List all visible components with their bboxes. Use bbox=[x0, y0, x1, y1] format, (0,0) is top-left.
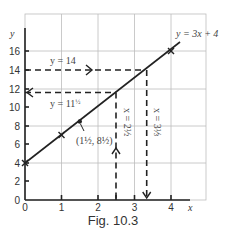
svg-text:2: 2 bbox=[95, 202, 101, 212]
pointer-line bbox=[81, 124, 85, 131]
x333-label: x = 3⅓ bbox=[152, 108, 163, 137]
y-axis-label: y bbox=[9, 28, 15, 39]
x-tick-labels: 0 1 2 3 4 bbox=[22, 202, 174, 212]
y-tick-labels: 0 2 4 6 8 10 12 14 16 bbox=[9, 46, 21, 206]
svg-text:4: 4 bbox=[168, 202, 174, 212]
svg-text:12: 12 bbox=[9, 84, 21, 95]
svg-text:3: 3 bbox=[132, 202, 138, 212]
svg-text:10: 10 bbox=[9, 102, 21, 113]
line-graph: 0 2 4 6 8 10 12 14 16 0 1 2 3 4 x y bbox=[0, 0, 226, 212]
svg-text:6: 6 bbox=[14, 139, 20, 150]
svg-text:14: 14 bbox=[9, 65, 21, 76]
x25-label: x = 2½ bbox=[122, 108, 133, 137]
svg-text:2: 2 bbox=[14, 176, 20, 187]
y115-label: y = 11½ bbox=[50, 98, 81, 109]
svg-text:4: 4 bbox=[14, 158, 20, 169]
line-equation-label: y = 3x + 4 bbox=[175, 28, 218, 39]
svg-text:0: 0 bbox=[14, 195, 20, 206]
point-marker-icon bbox=[78, 119, 82, 123]
point-label: (1½, 8½) bbox=[76, 135, 113, 147]
svg-text:1: 1 bbox=[59, 202, 65, 212]
svg-text:8: 8 bbox=[14, 121, 20, 132]
figure-caption: Fig. 10.3 bbox=[0, 213, 226, 228]
svg-text:16: 16 bbox=[9, 46, 21, 57]
y14-label: y = 14 bbox=[50, 55, 76, 66]
x-axis-label: x bbox=[187, 202, 193, 212]
svg-text:0: 0 bbox=[22, 202, 28, 212]
